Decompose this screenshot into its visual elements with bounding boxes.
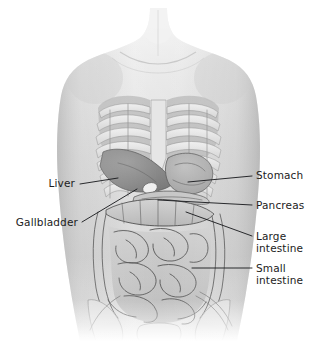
label-pancreas: Pancreas	[256, 199, 304, 211]
label-small-intestine-line1: Small	[256, 262, 286, 274]
label-large-intestine-line2: intestine	[256, 242, 303, 254]
label-small-intestine-line2: intestine	[256, 274, 303, 286]
anatomy-figure: Liver Gallbladder Stomach Pancreas Large…	[0, 0, 317, 341]
label-liver: Liver	[48, 177, 75, 189]
anatomy-illustration-canvas: Liver Gallbladder Stomach Pancreas Large…	[0, 0, 317, 341]
label-large-intestine-line1: Large	[256, 230, 286, 242]
label-stomach: Stomach	[256, 169, 303, 181]
label-gallbladder: Gallbladder	[16, 216, 79, 228]
